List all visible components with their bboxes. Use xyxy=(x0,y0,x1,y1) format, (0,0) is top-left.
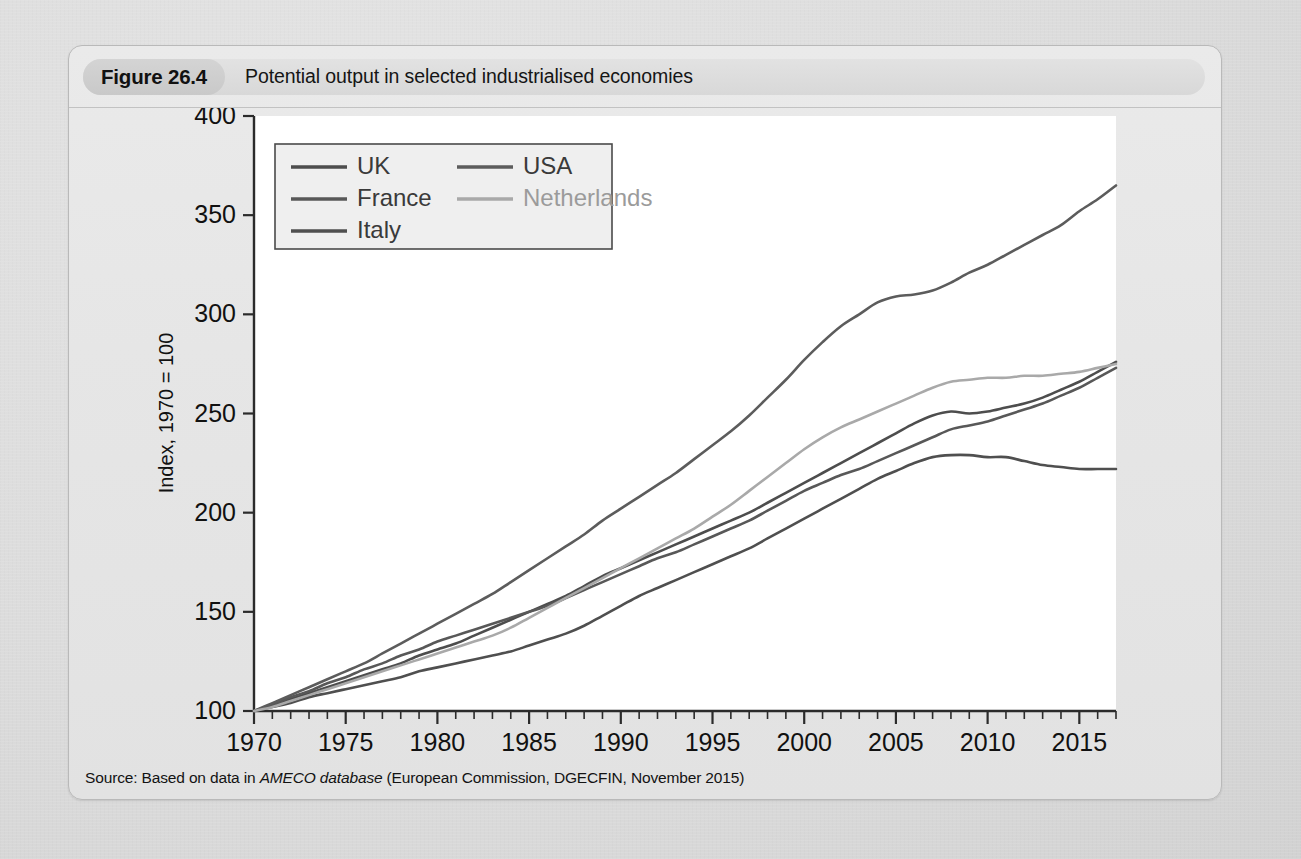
y-axis-label: Index, 1970 = 100 xyxy=(155,333,177,494)
legend-label-italy: Italy xyxy=(357,216,401,243)
plot-area-wrapper: Index, 1970 = 100 100150200250300350400 … xyxy=(69,108,1221,799)
y-tick-label: 350 xyxy=(194,200,236,228)
chart-legend: UKFranceItalyUSANetherlands xyxy=(275,144,652,249)
y-axis-ticks: 100150200250300350400 xyxy=(194,108,254,724)
x-tick-label: 2015 xyxy=(1052,728,1108,756)
x-tick-label: 2000 xyxy=(776,728,832,756)
legend-label-usa: USA xyxy=(523,152,572,179)
x-tick-label: 1995 xyxy=(685,728,741,756)
figure-box: Figure 26.4 Potential output in selected… xyxy=(68,45,1222,800)
y-tick-label: 150 xyxy=(194,597,236,625)
legend-label-uk: UK xyxy=(357,152,390,179)
source-italic: AMECO database xyxy=(260,769,383,786)
legend-label-netherlands: Netherlands xyxy=(523,184,652,211)
y-tick-label: 100 xyxy=(194,696,236,724)
y-tick-label: 200 xyxy=(194,498,236,526)
figure-source-note: Source: Based on data in AMECO database … xyxy=(85,769,744,787)
x-tick-label: 2010 xyxy=(960,728,1016,756)
x-tick-label: 1970 xyxy=(226,728,282,756)
x-tick-label: 1990 xyxy=(593,728,649,756)
figure-number-label: Figure 26.4 xyxy=(83,59,225,95)
x-tick-label: 1975 xyxy=(318,728,374,756)
y-tick-label: 400 xyxy=(194,108,236,129)
figure-caption-bar: Figure 26.4 Potential output in selected… xyxy=(69,46,1221,108)
line-chart: Index, 1970 = 100 100150200250300350400 … xyxy=(69,108,1221,800)
x-tick-label: 1985 xyxy=(501,728,557,756)
y-tick-label: 300 xyxy=(194,299,236,327)
legend-label-france: France xyxy=(357,184,432,211)
y-tick-label: 250 xyxy=(194,399,236,427)
x-tick-label: 2005 xyxy=(868,728,924,756)
page-background: Figure 26.4 Potential output in selected… xyxy=(0,0,1301,859)
x-axis-ticks: 1970197519801985199019952000200520102015 xyxy=(226,711,1107,756)
x-tick-label: 1980 xyxy=(410,728,466,756)
source-suffix: (European Commission, DGECFIN, November … xyxy=(382,769,744,786)
figure-caption-text: Potential output in selected industriali… xyxy=(245,65,693,88)
source-prefix: Source: Based on data in xyxy=(85,769,260,786)
